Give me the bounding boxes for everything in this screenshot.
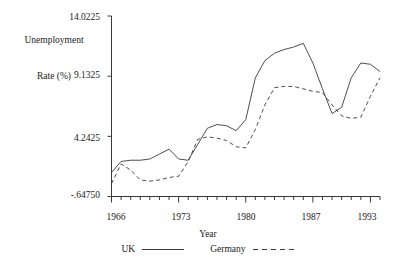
legend-entry-germany: Germany <box>210 244 294 254</box>
plot-area <box>0 0 416 276</box>
legend-label-uk: UK <box>121 244 135 254</box>
unemployment-rate-chart: Unemployment Rate (%) 14.0225 9.1325 4.2… <box>0 0 416 276</box>
chart-legend: UK Germany <box>0 244 416 254</box>
legend-swatch-solid <box>142 246 184 253</box>
x-tick-marks <box>112 197 381 203</box>
legend-entry-uk: UK <box>121 244 184 254</box>
series-line-germany <box>112 78 381 184</box>
legend-swatch-dashed <box>253 246 295 253</box>
series-line-uk <box>112 43 381 172</box>
legend-label-germany: Germany <box>210 244 245 254</box>
y-tick-marks <box>108 16 112 197</box>
